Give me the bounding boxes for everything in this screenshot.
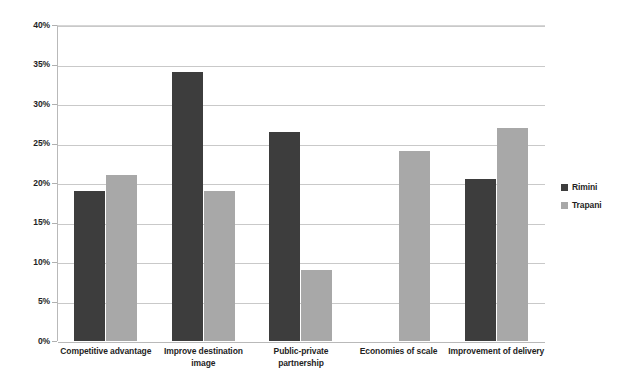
bar-chart: 40%35%30%25%20%15%10%5%0% Competitive ad… (0, 0, 625, 390)
legend-swatch-icon (561, 202, 568, 209)
bar-group (447, 25, 545, 341)
y-axis-tick-label: 25% (10, 138, 50, 148)
y-axis-tick-label: 30% (10, 99, 50, 109)
bar-trapani (204, 191, 235, 341)
x-axis-category-label: Public-private partnership (252, 346, 350, 369)
gridline (58, 342, 545, 343)
legend-entry[interactable]: Rimini (561, 178, 623, 196)
y-axis-tick-label: 0% (10, 336, 50, 346)
y-axis-tick-label: 15% (10, 217, 50, 227)
bar-rimini (74, 191, 105, 341)
x-axis-labels: Competitive advantageImprove destination… (57, 346, 545, 390)
bar-group (350, 25, 448, 341)
bar-group (155, 25, 253, 341)
bars-layer (57, 25, 545, 341)
y-axis-tick-label: 40% (10, 20, 50, 30)
bar-trapani (399, 151, 430, 341)
x-axis-category-label: Economies of scale (350, 346, 448, 358)
bar-group (57, 25, 155, 341)
legend-label: Trapani (572, 200, 602, 210)
y-axis-tick-label: 20% (10, 178, 50, 188)
x-axis-category-label: Improve destination image (155, 346, 253, 369)
bar-group (252, 25, 350, 341)
bar-rimini (172, 72, 203, 341)
bar-rimini (465, 179, 496, 341)
bar-rimini (269, 132, 300, 341)
x-axis-category-label: Competitive advantage (57, 346, 155, 358)
bar-trapani (106, 175, 137, 341)
legend-entry[interactable]: Trapani (561, 196, 623, 214)
y-axis-tick-label: 5% (10, 296, 50, 306)
y-axis-tick-label: 10% (10, 257, 50, 267)
bar-trapani (497, 128, 528, 341)
legend-label: Rimini (572, 182, 597, 192)
bar-trapani (301, 270, 332, 341)
x-axis-category-label: Improvement of delivery (447, 346, 545, 358)
y-axis-tick-mark (52, 341, 57, 342)
legend-swatch-icon (561, 184, 568, 191)
y-axis-tick-label: 35% (10, 59, 50, 69)
chart-legend: RiminiTrapani (561, 178, 623, 214)
